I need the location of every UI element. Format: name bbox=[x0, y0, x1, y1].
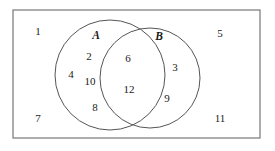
element-a-only: 2 bbox=[86, 51, 92, 62]
element-intersection: 6 bbox=[125, 53, 131, 64]
set-a-label: A bbox=[92, 30, 100, 42]
element-outside: 5 bbox=[217, 28, 223, 39]
element-b-only: 3 bbox=[172, 62, 178, 73]
element-a-only: 10 bbox=[85, 76, 96, 87]
set-b-label: B bbox=[155, 31, 163, 43]
element-outside: 7 bbox=[35, 113, 41, 124]
venn-diagram-figure: A B 2 4 10 8 6 12 3 9 1 5 7 11 bbox=[0, 0, 275, 151]
element-b-only: 9 bbox=[164, 93, 170, 104]
element-a-only: 4 bbox=[68, 69, 74, 80]
element-outside: 1 bbox=[35, 26, 41, 37]
element-a-only: 8 bbox=[92, 102, 98, 113]
element-outside: 11 bbox=[215, 113, 226, 124]
venn-diagram-canvas bbox=[0, 0, 275, 151]
element-intersection: 12 bbox=[124, 84, 135, 95]
